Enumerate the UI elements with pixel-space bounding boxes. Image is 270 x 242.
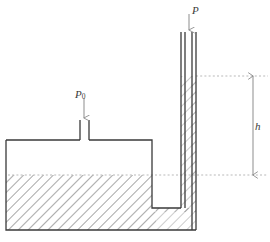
air-pocket xyxy=(156,140,181,208)
label-tank-pressure-base: P xyxy=(75,88,82,100)
diagram-canvas xyxy=(0,0,270,242)
label-tank-pressure-subscript: 0 xyxy=(82,92,86,101)
label-tank-pressure: P0 xyxy=(75,88,85,101)
pressure-arrows xyxy=(84,14,189,118)
tank-air-space xyxy=(8,142,152,175)
pressure-tank-diagram: P P0 h xyxy=(0,0,270,242)
label-height: h xyxy=(255,120,261,132)
inlet-spout xyxy=(80,120,89,140)
label-tube-pressure: P xyxy=(192,4,199,16)
